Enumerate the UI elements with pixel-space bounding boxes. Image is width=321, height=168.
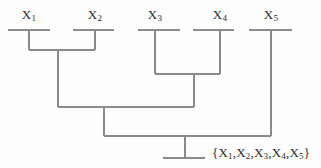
brace-close: } — [304, 145, 310, 160]
leaf-label-x1: X1 — [22, 7, 36, 23]
leaf-label-x2: X2 — [88, 7, 102, 23]
leaf-label-x4: X4 — [213, 7, 227, 23]
root-set-label: {X1,X2,X3,X4,X5} — [212, 145, 310, 161]
leaf-label-x5: X5 — [264, 7, 278, 23]
dendrogram-figure: X1 X2 X3 X4 X5 {X1,X2,X3,X4,X5} — [0, 0, 321, 168]
leaf-label-x3: X3 — [148, 7, 162, 23]
dendrogram-lines — [0, 0, 321, 168]
